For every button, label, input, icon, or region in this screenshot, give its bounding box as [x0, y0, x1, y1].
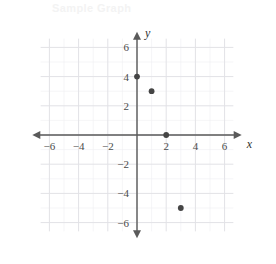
data-point: [149, 88, 155, 94]
x-tick-label: 2: [163, 140, 169, 152]
x-tick-label: −6: [44, 140, 56, 152]
y-tick-label: 4: [124, 71, 130, 83]
y-tick-label: 6: [124, 41, 130, 53]
y-axis-name: y: [144, 26, 151, 40]
x-tick-label: −4: [73, 140, 85, 152]
y-tick-label: −2: [117, 158, 129, 170]
y-tick-label: 2: [124, 100, 130, 112]
data-point: [178, 205, 184, 211]
x-axis-name: x: [246, 137, 253, 151]
y-tick-label: −6: [117, 217, 129, 229]
y-tick-label: −4: [117, 187, 129, 199]
x-tick-label: 6: [222, 140, 228, 152]
x-tick-label: −2: [102, 140, 114, 152]
x-axis-tick-labels: −6−4−2246: [44, 140, 228, 152]
axis-name-labels: xy: [144, 26, 253, 151]
data-point: [134, 74, 140, 80]
watermark-text: Sample Graph: [52, 2, 131, 14]
data-point: [163, 132, 169, 138]
x-tick-label: 4: [193, 140, 199, 152]
data-point-group: [134, 74, 184, 211]
scatter-plot-canvas: −6−4−2246 642−2−4−6 xy: [0, 0, 276, 264]
coordinate-plane-figure: Sample Graph −6−4−2246 642−2−4−6 xy: [0, 0, 276, 264]
